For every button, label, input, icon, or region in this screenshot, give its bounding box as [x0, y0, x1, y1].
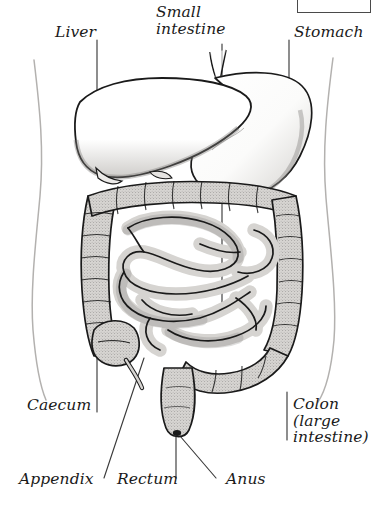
caecum: [92, 321, 139, 366]
appendix: [126, 360, 142, 388]
label-colon: Colon (large intestine): [293, 396, 369, 446]
oesophagus: [210, 50, 226, 79]
label-rectum: Rectum: [117, 471, 178, 488]
leader-anus: [180, 436, 216, 478]
small-intestine: [119, 217, 273, 350]
label-liver: Liver: [55, 24, 96, 41]
rectum: [161, 368, 194, 437]
label-caecum: Caecum: [27, 397, 91, 414]
label-stomach: Stomach: [294, 24, 363, 41]
label-anus: Anus: [226, 471, 266, 488]
label-appendix: Appendix: [19, 471, 94, 488]
label-small-intestine: Small intestine: [156, 4, 226, 38]
anus: [173, 430, 181, 436]
